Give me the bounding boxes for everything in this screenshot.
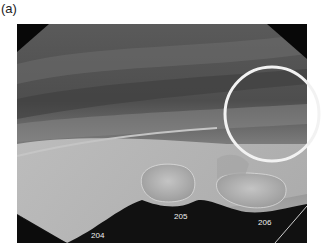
- radiograph-image: [17, 24, 307, 243]
- tooth-label-205: 205: [174, 212, 187, 221]
- tooth-label-204: 204: [91, 231, 104, 240]
- panel-label: (a): [1, 1, 17, 16]
- tooth-label-206: 206: [258, 218, 271, 227]
